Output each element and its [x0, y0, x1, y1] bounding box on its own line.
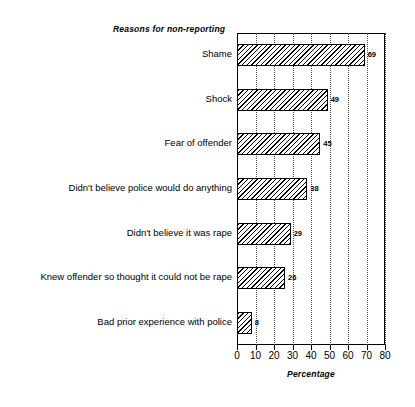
x-axis-tick-label: 20: [264, 351, 284, 361]
gridline: [385, 33, 386, 345]
bar: [237, 267, 285, 289]
x-axis-tick-label: 60: [338, 351, 358, 361]
x-axis-tick-label: 50: [320, 351, 340, 361]
bar: [237, 44, 365, 66]
category-label: Bad prior experience with police: [97, 317, 232, 327]
bar: [237, 312, 252, 334]
bar-value-label: 45: [323, 140, 331, 148]
x-axis-tick-label: 80: [375, 351, 395, 361]
bar: [237, 178, 307, 200]
category-label: Fear of offender: [165, 138, 232, 148]
bar-value-label: 38: [310, 185, 318, 193]
x-axis-tick-label: 0: [227, 351, 247, 361]
bar-row: [237, 133, 385, 155]
bar-chart: Reasons for non-reporting ShameShockFear…: [0, 0, 415, 407]
x-axis-tick-label: 40: [301, 351, 321, 361]
bar-row: [237, 312, 385, 334]
bar-value-label: 69: [368, 51, 376, 59]
category-label: Shame: [202, 49, 232, 59]
bar-row: [237, 267, 385, 289]
bar: [237, 223, 291, 245]
bar-row: [237, 223, 385, 245]
category-label: Didn't believe it was rape: [127, 228, 232, 238]
bar: [237, 89, 328, 111]
bar: [237, 133, 320, 155]
bar-value-label: 26: [288, 274, 296, 282]
category-label: Didn't believe police would do anything: [69, 183, 232, 193]
x-axis-tick-label: 10: [246, 351, 266, 361]
x-axis-tick-label: 70: [357, 351, 377, 361]
chart-title: Reasons for non-reporting: [113, 24, 225, 34]
x-axis-tick-label: 30: [283, 351, 303, 361]
bar-row: [237, 89, 385, 111]
bar-value-label: 29: [294, 230, 302, 238]
bar-value-label: 8: [255, 319, 259, 327]
bar-value-label: 49: [331, 96, 339, 104]
bar-row: [237, 44, 385, 66]
x-axis-title: Percentage: [237, 369, 385, 379]
category-label: Shock: [206, 94, 232, 104]
category-label: Knew offender so thought it could not be…: [40, 272, 232, 282]
